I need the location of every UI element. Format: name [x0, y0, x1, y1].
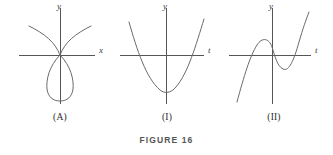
t-axis-label: t [315, 45, 318, 55]
figure-caption: FIGURE 16 [0, 135, 333, 145]
cubic-curve [237, 12, 309, 102]
y-axis-label: y [162, 1, 167, 11]
panel-i-label: (I) [112, 112, 222, 122]
panel-ii: y t (II) [219, 0, 329, 130]
x-axis-label: x [98, 45, 103, 55]
panel-ii-label: (II) [219, 112, 329, 122]
teardrop-left-branch [29, 26, 60, 55]
t-axis-label: t [208, 45, 211, 55]
panel-ii-plot: y t [219, 0, 329, 130]
panel-a: y x (A) [5, 0, 115, 130]
teardrop-right-branch [60, 26, 91, 55]
panel-i-plot: y t [112, 0, 222, 130]
panel-row: y x (A) y t (I) y t ( [0, 0, 333, 130]
y-axis-label: y [56, 1, 61, 11]
figure-16: y x (A) y t (I) y t ( [0, 0, 333, 155]
panel-a-label: (A) [5, 112, 115, 122]
panel-i: y t (I) [112, 0, 222, 130]
y-axis-label: y [268, 1, 273, 11]
panel-a-plot: y x [5, 0, 115, 130]
